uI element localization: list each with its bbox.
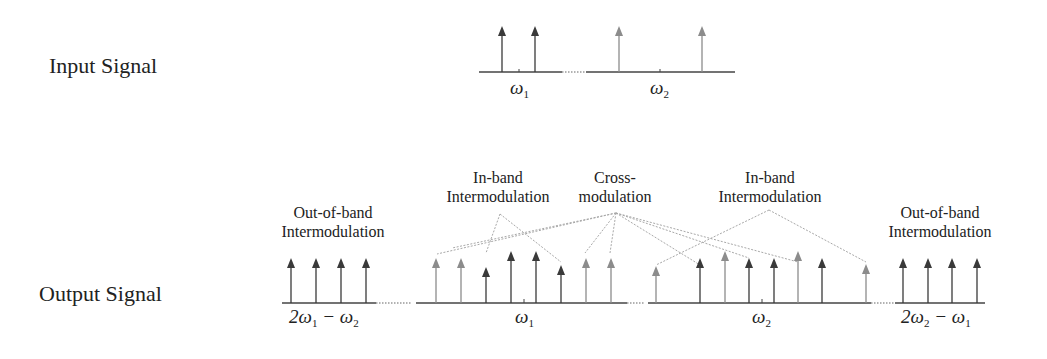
output-tones-oob-left [287, 258, 370, 303]
output-tones-oob-right [899, 258, 981, 303]
output-signal-label: Output Signal [39, 281, 162, 307]
annotation-oob-right: Out-of-band Intermodulation [875, 203, 1005, 241]
output-tones-omega1 [432, 251, 615, 303]
annotation-oob-left: Out-of-band Intermodulation [268, 203, 398, 241]
output-freq-omega2: ω2 [752, 306, 771, 329]
output-freq-2w2-minus-w1: 2ω2 − ω1 [901, 306, 971, 329]
input-tone-4 [698, 26, 706, 72]
input-signal-label: Input Signal [49, 53, 157, 79]
annotation-inband-right: In-band Intermodulation [700, 168, 840, 206]
input-tone-3 [615, 26, 623, 72]
annotation-connectors [437, 210, 866, 265]
output-freq-omega1: ω1 [515, 306, 534, 329]
input-spectrum [479, 26, 735, 72]
output-tones-omega2 [652, 251, 870, 303]
output-freq-2w1-minus-w2: 2ω1 − ω2 [289, 306, 359, 329]
annotation-inband-left: In-band Intermodulation [428, 168, 568, 206]
input-freq-omega1: ω1 [510, 77, 529, 100]
input-freq-omega2: ω2 [650, 77, 669, 100]
input-tone-2 [531, 26, 539, 72]
annotation-cross-modulation: Cross- modulation [560, 168, 670, 206]
input-tone-1 [498, 26, 506, 72]
